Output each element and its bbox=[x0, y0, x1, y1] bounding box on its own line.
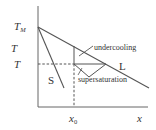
liquidus-label: L bbox=[119, 60, 126, 72]
undercooling-label: undercooling bbox=[94, 43, 136, 52]
solidus-label: S bbox=[48, 74, 54, 86]
x-axis-label: x bbox=[136, 112, 142, 124]
temperature-label: T bbox=[14, 58, 21, 70]
phase-diagram: TM T T S L undercooling supersaturation … bbox=[0, 0, 156, 130]
y-axis-label: T bbox=[11, 42, 18, 54]
melting-point-label: TM bbox=[14, 20, 26, 33]
composition-label: x0 bbox=[68, 112, 77, 125]
supersaturation-label: supersaturation bbox=[78, 75, 127, 84]
